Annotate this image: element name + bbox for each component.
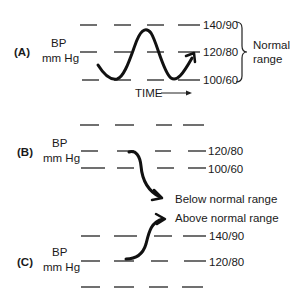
panel-c-level-120-80: 120/80 bbox=[209, 256, 244, 268]
time-arrowhead bbox=[186, 91, 192, 96]
diagram-canvas: (A) BP mm Hg 140/90 120/80 100/60 Normal… bbox=[0, 0, 297, 302]
above-normal-label: Above normal range bbox=[175, 212, 279, 224]
panel-c-ylabel-unit: mm Hg bbox=[43, 261, 80, 273]
bp-oscillation-curve bbox=[98, 30, 192, 79]
panel-a-ylabel-unit: mm Hg bbox=[42, 52, 79, 64]
panel-a: (A) BP mm Hg 140/90 120/80 100/60 Normal… bbox=[14, 19, 290, 99]
panel-c-level-140-90: 140/90 bbox=[209, 230, 244, 242]
normal-range-label-line2: range bbox=[253, 53, 282, 65]
panel-b: (B) BP mm Hg 120/80 100/60 Below normal … bbox=[17, 125, 277, 205]
panel-a-level-100-60: 100/60 bbox=[203, 74, 238, 86]
panel-a-level-120-80: 120/80 bbox=[203, 46, 238, 58]
panel-c: (C) BP mm Hg 140/90 120/80 Above normal … bbox=[17, 212, 279, 287]
panel-b-gridlines bbox=[80, 125, 206, 168]
bp-diagram: (A) BP mm Hg 140/90 120/80 100/60 Normal… bbox=[0, 0, 297, 302]
panel-b-ylabel-unit: mm Hg bbox=[43, 152, 80, 164]
panel-b-level-120-80: 120/80 bbox=[208, 145, 243, 157]
time-axis-label: TIME bbox=[135, 87, 163, 99]
below-normal-label: Below normal range bbox=[175, 193, 277, 205]
panel-c-ylabel-bp: BP bbox=[52, 246, 68, 258]
panel-b-label: (B) bbox=[17, 146, 33, 158]
panel-c-label: (C) bbox=[17, 256, 33, 268]
panel-b-level-100-60: 100/60 bbox=[208, 163, 243, 175]
panel-a-level-140-90: 140/90 bbox=[203, 19, 238, 31]
panel-b-ylabel-bp: BP bbox=[52, 137, 68, 149]
panel-c-gridlines bbox=[81, 236, 206, 287]
normal-range-label-line1: Normal bbox=[253, 39, 290, 51]
panel-a-label: (A) bbox=[14, 46, 30, 58]
panel-a-ylabel-bp: BP bbox=[51, 37, 67, 49]
